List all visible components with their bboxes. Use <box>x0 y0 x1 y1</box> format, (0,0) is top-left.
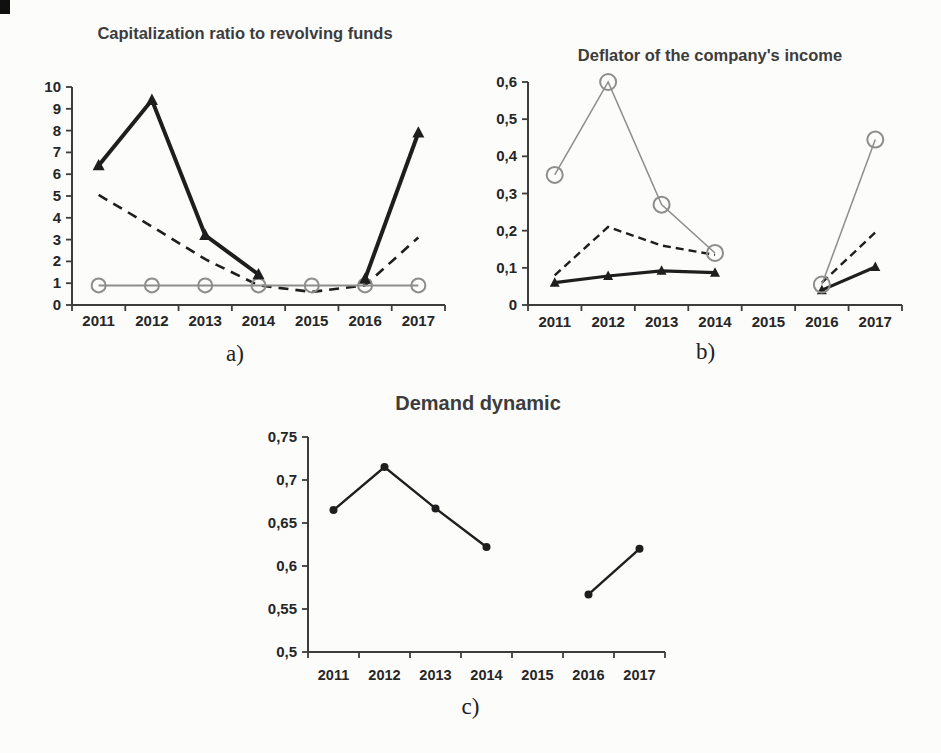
svg-text:2013: 2013 <box>645 313 678 330</box>
chart-capitalization-ratio: Capitalization ratio to revolving funds … <box>0 0 470 380</box>
svg-text:5: 5 <box>53 187 61 204</box>
svg-text:2015: 2015 <box>752 313 785 330</box>
svg-text:0: 0 <box>509 296 517 313</box>
svg-text:10: 10 <box>44 78 61 95</box>
svg-text:2015: 2015 <box>521 667 553 683</box>
svg-text:2013: 2013 <box>189 312 222 329</box>
svg-text:0,6: 0,6 <box>276 557 297 574</box>
svg-text:2014: 2014 <box>242 312 276 329</box>
svg-text:2012: 2012 <box>591 313 624 330</box>
subfigure-label-b: b) <box>470 339 941 365</box>
svg-text:4: 4 <box>53 209 62 226</box>
svg-text:0,1: 0,1 <box>496 259 517 276</box>
svg-text:2: 2 <box>53 252 61 269</box>
svg-text:0,5: 0,5 <box>276 643 297 660</box>
svg-text:0,5: 0,5 <box>496 110 517 127</box>
svg-text:2012: 2012 <box>135 312 168 329</box>
subfigure-label-a: a) <box>0 341 470 367</box>
svg-text:2015: 2015 <box>295 312 328 329</box>
svg-text:2016: 2016 <box>348 312 381 329</box>
scanned-figure-page: Capitalization ratio to revolving funds … <box>0 0 941 753</box>
chart-canvas-deflator: 00,10,20,30,40,50,6201120122013201420152… <box>470 0 941 380</box>
svg-text:1: 1 <box>53 274 61 291</box>
svg-text:2012: 2012 <box>368 667 400 683</box>
svg-text:7: 7 <box>53 143 61 160</box>
svg-text:0,3: 0,3 <box>496 185 517 202</box>
svg-text:0,65: 0,65 <box>268 514 297 531</box>
svg-text:2011: 2011 <box>82 312 115 329</box>
svg-text:6: 6 <box>53 165 61 182</box>
svg-text:2011: 2011 <box>538 313 571 330</box>
svg-text:3: 3 <box>53 231 61 248</box>
svg-text:0,55: 0,55 <box>268 600 297 617</box>
svg-text:2016: 2016 <box>805 313 838 330</box>
svg-text:0: 0 <box>53 296 61 313</box>
chart-deflator-income: Deflator of the company's income 00,10,2… <box>470 0 941 380</box>
svg-text:2017: 2017 <box>623 667 655 683</box>
svg-text:0,2: 0,2 <box>496 222 517 239</box>
svg-text:0,6: 0,6 <box>496 73 517 90</box>
svg-text:2017: 2017 <box>402 312 435 329</box>
subfigure-label-c: c) <box>0 694 941 720</box>
svg-text:8: 8 <box>53 122 61 139</box>
svg-text:2016: 2016 <box>572 667 604 683</box>
svg-text:0,75: 0,75 <box>268 428 297 445</box>
svg-text:0,4: 0,4 <box>496 147 518 164</box>
svg-text:0,7: 0,7 <box>276 471 297 488</box>
svg-text:2014: 2014 <box>698 313 732 330</box>
chart-demand-dynamic: Demand dynamic 0,50,550,60,650,70,752011… <box>0 380 941 753</box>
svg-text:9: 9 <box>53 100 61 117</box>
svg-text:2014: 2014 <box>470 667 502 683</box>
svg-text:2011: 2011 <box>318 667 349 683</box>
svg-text:2017: 2017 <box>859 313 892 330</box>
svg-text:2013: 2013 <box>419 667 451 683</box>
chart-canvas-capitalization: 0123456789102011201220132014201520162017 <box>0 0 470 380</box>
